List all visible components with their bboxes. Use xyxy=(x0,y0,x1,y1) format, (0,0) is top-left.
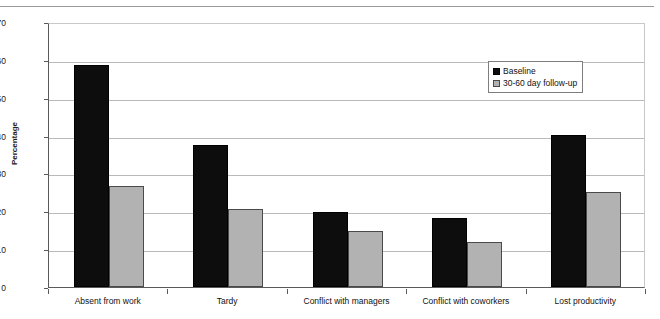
legend-label-followup: 30-60 day follow-up xyxy=(503,78,577,88)
x-axis-tick-mark xyxy=(48,289,49,294)
x-axis-tick-mark xyxy=(645,289,646,294)
bar-followup xyxy=(109,186,144,287)
y-axis-tick-label: 40 xyxy=(0,133,6,141)
x-axis-category-label: Conflict with coworkers xyxy=(406,296,525,306)
y-axis-tick-label: 30 xyxy=(0,170,6,178)
legend-swatch-baseline-icon xyxy=(493,68,500,75)
x-axis-category-label: Tardy xyxy=(167,296,286,306)
bar-baseline xyxy=(432,218,467,287)
y-axis-tick-label: 50 xyxy=(0,95,6,103)
x-axis-category-label: Conflict with managers xyxy=(287,296,406,306)
bar-baseline xyxy=(193,145,228,287)
legend-item-baseline: Baseline xyxy=(493,65,577,77)
y-axis-tick-label: 70 xyxy=(0,19,6,27)
chart-screenshot: Percentage 010203040506070 Absent from w… xyxy=(0,0,660,319)
bar-baseline xyxy=(74,65,109,287)
x-axis-tick-mark xyxy=(167,289,168,294)
header-divider xyxy=(0,6,654,7)
bar-followup xyxy=(586,192,621,287)
y-axis-tick-label: 10 xyxy=(0,246,6,254)
x-axis-category-label: Absent from work xyxy=(48,296,167,306)
x-axis-tick-mark xyxy=(287,289,288,294)
legend-swatch-followup-icon xyxy=(493,80,500,87)
bar-followup xyxy=(467,242,502,287)
bar-baseline xyxy=(313,212,348,287)
y-axis-title: Percentage xyxy=(10,99,19,189)
y-axis-tick-label: 20 xyxy=(0,208,6,216)
legend-item-followup: 30-60 day follow-up xyxy=(493,77,577,89)
bar-baseline xyxy=(551,135,586,287)
x-axis-tick-mark xyxy=(406,289,407,294)
legend-label-baseline: Baseline xyxy=(503,66,536,76)
clipped-header-text xyxy=(0,0,660,2)
y-axis-tick-label: 0 xyxy=(0,284,6,292)
legend: Baseline 30-60 day follow-up xyxy=(488,61,583,93)
x-axis-category-label: Lost productivity xyxy=(526,296,645,306)
bar-followup xyxy=(228,209,263,287)
gridline xyxy=(49,100,644,101)
bar-followup xyxy=(348,231,383,287)
x-axis-tick-mark xyxy=(526,289,527,294)
y-axis-tick-label: 60 xyxy=(0,57,6,65)
